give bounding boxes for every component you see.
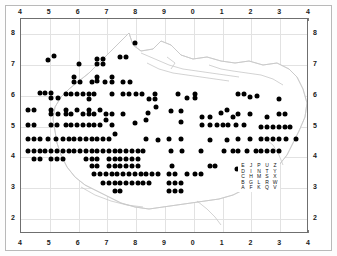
bottom-tick-label: 8 <box>133 239 137 247</box>
record-dot <box>236 112 241 117</box>
record-dot <box>236 92 241 97</box>
record-dot <box>49 122 54 127</box>
record-dot <box>226 122 231 127</box>
record-dot <box>95 149 100 154</box>
record-dot <box>49 96 54 101</box>
record-dot <box>37 156 42 161</box>
record-dot <box>175 92 180 97</box>
record-dot <box>145 110 150 115</box>
record-dot <box>112 164 117 169</box>
record-dot <box>103 112 108 117</box>
record-dot <box>224 138 229 143</box>
top-tick-label: 3 <box>277 8 281 16</box>
record-dot <box>124 164 129 169</box>
record-dot <box>245 149 250 154</box>
bottom-tick-label: 0 <box>191 239 195 247</box>
record-dot <box>101 149 106 154</box>
record-dot <box>98 172 103 177</box>
top-tick-label: 2 <box>248 8 252 16</box>
record-dot <box>101 56 106 61</box>
record-dot <box>92 92 97 97</box>
record-dot <box>193 92 198 97</box>
bottom-tick-label: 5 <box>47 239 51 247</box>
record-dot <box>109 92 114 97</box>
bottom-tick-label: 9 <box>162 239 166 247</box>
record-dot <box>199 172 204 177</box>
record-dot <box>92 172 97 177</box>
record-dot <box>95 164 100 169</box>
record-dot <box>118 54 123 59</box>
record-dot <box>129 156 134 161</box>
record-dot <box>219 110 224 115</box>
grid-letter-legend: EJPUZDINTYCHMSXBGLRWAFKQV <box>238 162 280 192</box>
record-dot <box>106 181 111 186</box>
legend-cell-v: V <box>271 185 279 191</box>
record-dot <box>178 109 183 114</box>
left-tick-label: 3 <box>11 183 15 191</box>
record-dot <box>118 181 123 186</box>
record-dot <box>127 172 132 177</box>
record-dot <box>95 61 100 66</box>
right-tick-label: 3 <box>313 183 317 191</box>
record-dot <box>276 96 281 101</box>
record-dot <box>173 172 178 177</box>
record-dot <box>132 172 137 177</box>
record-dot <box>95 136 100 141</box>
record-dot <box>124 181 129 186</box>
record-dot <box>152 96 157 101</box>
record-dot <box>242 122 247 127</box>
record-dot <box>283 136 288 141</box>
record-dot <box>128 79 133 84</box>
record-dot <box>124 149 129 154</box>
record-dot <box>265 115 270 120</box>
record-dot <box>129 164 134 169</box>
record-dot <box>89 79 94 84</box>
record-dot <box>101 181 106 186</box>
bottom-tick-label: 2 <box>248 239 252 247</box>
bottom-tick-label: 7 <box>104 239 108 247</box>
record-dot <box>69 122 74 127</box>
record-dot <box>31 149 36 154</box>
record-dot <box>265 124 270 129</box>
record-dot <box>230 115 235 120</box>
record-dot <box>106 136 111 141</box>
record-dot <box>46 58 51 63</box>
record-dot <box>56 96 61 101</box>
record-dot <box>173 181 178 186</box>
record-dot <box>207 115 212 120</box>
record-dot <box>103 118 108 123</box>
record-dot <box>63 112 68 117</box>
record-dot <box>294 137 299 142</box>
record-dot <box>75 107 80 112</box>
record-dot <box>178 119 183 124</box>
top-tick-label: 6 <box>76 8 80 16</box>
top-tick-label: 0 <box>191 8 195 16</box>
record-dot <box>207 122 212 127</box>
left-tick-label: 2 <box>11 214 15 222</box>
record-dot <box>247 136 252 141</box>
record-dot <box>170 164 175 169</box>
bottom-tick-label: 1 <box>220 239 224 247</box>
record-dot <box>72 79 77 84</box>
record-dot <box>112 181 117 186</box>
record-dot <box>167 189 172 194</box>
record-dot <box>26 122 31 127</box>
legend-cell-a: A <box>239 185 247 191</box>
record-dot <box>127 92 132 97</box>
record-dot <box>37 136 42 141</box>
record-dot <box>92 122 97 127</box>
bottom-tick-mark <box>308 230 309 233</box>
right-tick-label: 2 <box>313 214 317 222</box>
record-dot <box>109 79 114 84</box>
record-dot <box>78 149 83 154</box>
record-dot <box>43 149 48 154</box>
record-dot <box>173 189 178 194</box>
record-dot <box>276 149 281 154</box>
bottom-tick-label: 4 <box>306 239 310 247</box>
record-dot <box>184 96 189 101</box>
record-dot <box>150 172 155 177</box>
record-dot <box>154 105 159 110</box>
record-dot <box>247 95 252 100</box>
record-dot <box>222 149 227 154</box>
record-dot <box>49 156 54 161</box>
